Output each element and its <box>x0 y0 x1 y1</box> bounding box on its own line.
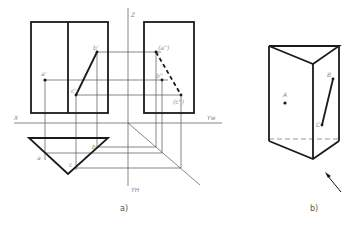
label-a-side: (a'') <box>158 44 170 51</box>
point-a-front <box>43 78 46 81</box>
label-c-side: (c'') <box>173 98 184 105</box>
side-view-outline <box>144 22 194 113</box>
label-b-top: b <box>92 143 96 150</box>
label-x: X <box>13 114 19 121</box>
caption-b: b) <box>310 204 318 213</box>
view-direction-arrow <box>327 175 341 192</box>
point-c-3d <box>321 124 324 127</box>
caption-a: a) <box>120 204 128 213</box>
top-view-triangle <box>29 138 108 174</box>
point-a-3d <box>283 101 286 104</box>
front-view-line-bc <box>76 52 97 95</box>
label-yw: Yw <box>207 114 216 121</box>
point-b-side <box>155 51 158 54</box>
figure-a: Z X Yw YH a' b' c' (a'') b'' (c'') a b c… <box>13 8 222 213</box>
prism-bottom-edges <box>269 141 339 159</box>
point-c-front <box>75 94 78 97</box>
label-a-top: a <box>37 154 41 161</box>
point-b-front <box>96 51 99 54</box>
projection-diagram: Z X Yw YH a' b' c' (a'') b'' (c'') a b c… <box>0 0 356 227</box>
miter-line <box>128 123 200 185</box>
prism-top-face <box>269 46 339 64</box>
figure-b: A B C b) <box>269 46 341 213</box>
label-c-top: c <box>69 161 73 168</box>
point-c-side <box>180 94 183 97</box>
line-bc-3d <box>322 79 333 125</box>
label-b-front: b' <box>93 44 99 51</box>
point-a-side <box>161 79 164 82</box>
front-view-outline <box>31 22 108 113</box>
label-yh: YH <box>131 186 140 193</box>
label-a-front: a' <box>41 70 47 77</box>
label-z: Z <box>130 11 136 18</box>
label-B: B <box>327 71 331 78</box>
label-C: C <box>316 121 321 128</box>
arrowhead-icon <box>325 172 331 178</box>
point-b-3d <box>332 78 335 81</box>
label-A: A <box>282 91 287 98</box>
label-b-side: b'' <box>156 72 163 79</box>
label-c-front: c' <box>71 87 76 94</box>
